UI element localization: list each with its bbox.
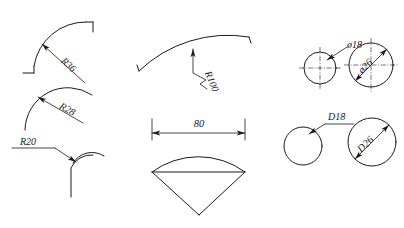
circle-phi18-label: ø18	[346, 39, 362, 50]
arc-r20-label: R20	[19, 136, 36, 147]
technical-drawing-canvas: R36 R28 R20 R100 80	[0, 0, 404, 228]
figure-circle-d18: D18	[284, 111, 354, 165]
figure-arc-r28: R28	[25, 88, 92, 130]
circle-d18-label: D18	[327, 111, 345, 122]
circle-d26-label: D26	[354, 133, 376, 155]
arc-r100-arc	[139, 35, 249, 71]
arc-r100-left-tick	[137, 65, 139, 71]
arc-r100-label: R100	[203, 69, 221, 94]
arc-r100-right-tick	[249, 37, 251, 43]
arc-r28-label: R28	[57, 100, 77, 118]
circle-phi18-leader	[327, 47, 347, 60]
cone-left-side	[152, 172, 199, 215]
cone-right-side	[199, 172, 245, 215]
figure-cone	[152, 157, 245, 215]
arc-r20-leader	[55, 148, 76, 162]
figure-arc-r20: R20	[12, 136, 104, 197]
circle-d18-outline	[284, 127, 322, 165]
arc-r20-curve-right	[73, 152, 104, 163]
figure-circle-phi18: ø18	[299, 39, 362, 89]
figure-arc-r100: R100	[137, 35, 251, 93]
figure-arc-r36: R36	[23, 22, 93, 83]
cone-top-arc	[152, 157, 245, 172]
figure-width-80: 80	[152, 118, 245, 140]
width-80-label: 80	[194, 118, 205, 129]
circle-phi26-label: ø26	[355, 56, 375, 76]
arc-r36-label: R36	[58, 54, 78, 74]
arc-r100-jogged-leader	[193, 49, 207, 89]
figure-circle-d26: D26	[348, 118, 396, 166]
